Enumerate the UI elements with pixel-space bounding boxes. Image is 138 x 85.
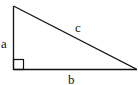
label-c: c (75, 20, 81, 35)
label-a: a (1, 36, 7, 51)
right-triangle-diagram: a c b (0, 0, 137, 85)
label-b: b (68, 72, 75, 85)
side-c-hypotenuse-line (14, 6, 138, 70)
right-angle-marker-icon (14, 60, 24, 70)
